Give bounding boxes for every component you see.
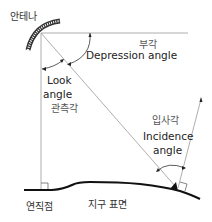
radar-geometry-diagram xyxy=(0,0,212,222)
right-angle-marker-target xyxy=(180,182,187,191)
look-angle-label-ko: 관측각 xyxy=(51,104,78,114)
arrowhead-icon xyxy=(200,97,203,102)
antenna-label: 안테나 xyxy=(10,12,37,22)
incidence-angle-label-line2: angle xyxy=(153,145,182,156)
incidence-angle-label-line1: Incidence xyxy=(143,131,193,142)
look-angle-label-line1: Look xyxy=(47,75,72,86)
incidence-angle-label-ko: 입사각 xyxy=(152,116,179,126)
look-angle-label-line2: angle xyxy=(43,89,72,100)
nadir-point-label: 연직점 xyxy=(26,202,53,212)
earth-surface-label: 지구 표면 xyxy=(88,200,127,210)
depression-angle-label-en: Depression angle xyxy=(86,50,177,61)
antenna-icon xyxy=(28,21,60,50)
